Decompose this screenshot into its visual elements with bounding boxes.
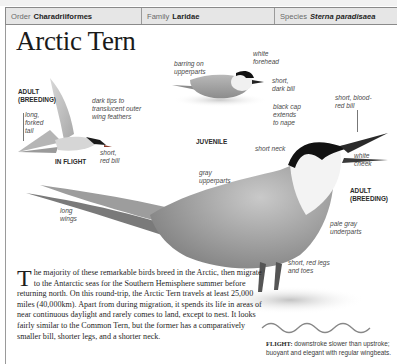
juvenile-caption: JUVENILE: [196, 138, 227, 146]
flight-label: FLIGHT:: [266, 340, 293, 347]
drop-cap: T: [17, 269, 32, 288]
label-gray-upperparts: gray upperparts: [199, 169, 231, 185]
label-short-neck: short neck: [255, 145, 285, 153]
adult-caption: ADULT (BREEDING): [350, 187, 388, 203]
leader-line: [23, 113, 24, 141]
flight-pattern-wave: [262, 324, 370, 333]
flight-note: FLIGHT: downstroke slower than upstroke;…: [266, 339, 397, 357]
label-short-red-legs: short, red legs and toes: [288, 259, 330, 275]
juvenile-tern-drawing: [172, 71, 268, 107]
label-dark-tips: dark tips to translucent outer wing feat…: [92, 97, 141, 121]
label-short-red-bill-flight: short, red bill: [100, 149, 119, 165]
label-long-forked-tail: long, forked tail: [25, 111, 43, 135]
label-white-forehead: white forehead: [253, 50, 279, 66]
in-flight-plumage-label: ADULT (BREEDING): [18, 88, 56, 104]
label-barring: barring on upperparts: [174, 60, 206, 76]
label-pale-gray-underparts: pale gray underparts: [330, 220, 362, 236]
label-blood-red-bill: short, blood- red bill: [335, 94, 372, 110]
label-white-cheek: white cheek: [354, 152, 372, 168]
label-short-dark-bill: short, dark bill: [272, 77, 295, 93]
in-flight-caption: IN FLIGHT: [55, 158, 86, 166]
label-long-wings: long wings: [60, 207, 77, 223]
description-paragraph: The majority of these remarkable birds b…: [17, 268, 262, 342]
description-text: he majority of these remarkable birds br…: [17, 268, 262, 341]
leader-line: [357, 110, 358, 132]
label-black-cap: black cap extends to nape: [273, 103, 301, 127]
